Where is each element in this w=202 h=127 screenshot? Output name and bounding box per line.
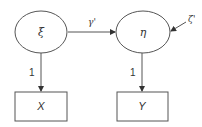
edge-label-loading-y: 1 <box>130 67 136 78</box>
edge-xi-to-x: 1 <box>29 53 41 91</box>
arrow-zeta-eta <box>171 22 186 31</box>
observed-node-x: X <box>15 92 67 121</box>
node-label-y: Y <box>138 100 146 112</box>
latent-node-xi: ξ <box>15 11 67 53</box>
node-label-x: X <box>36 100 45 112</box>
edge-label-gamma: γ' <box>88 17 96 27</box>
observed-node-y: Y <box>117 92 168 121</box>
latent-node-eta: η <box>116 11 170 53</box>
edge-zeta-to-eta: ζ' <box>171 14 195 31</box>
edge-label-loading-x: 1 <box>29 67 35 78</box>
path-diagram: γ' ζ' 1 1 ξ η X Y <box>0 0 202 127</box>
edge-label-zeta: ζ' <box>188 14 195 24</box>
edge-xi-to-eta: γ' <box>68 17 115 32</box>
node-label-eta: η <box>140 26 147 39</box>
node-label-xi: ξ <box>38 26 45 39</box>
edge-eta-to-y: 1 <box>130 53 142 91</box>
